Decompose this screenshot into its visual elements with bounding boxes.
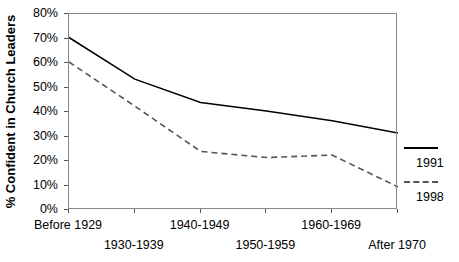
x-axis-tick-mark [265, 209, 266, 213]
y-axis-tick-mark [64, 87, 68, 88]
x-axis-tick-label: After 1970 [368, 238, 426, 252]
x-axis-tick-label: 1930-1939 [104, 238, 164, 252]
y-axis-tick-label: 70% [20, 32, 58, 44]
legend-label: 1998 [416, 190, 444, 204]
y-axis-tick-mark [64, 38, 68, 39]
y-axis-tick-label: 40% [20, 105, 58, 117]
y-axis-tick-label: 60% [20, 56, 58, 68]
legend-item-1991: 1991 [404, 146, 459, 180]
y-axis-tick-label: 30% [20, 130, 58, 142]
x-axis-tick-label: 1940-1949 [170, 218, 230, 232]
y-axis-tick-label: 50% [20, 81, 58, 93]
x-axis-tick-label: 1960-1969 [301, 218, 361, 232]
legend-swatch-dashed-icon [404, 181, 438, 183]
y-axis-tick-mark [64, 209, 68, 210]
y-axis-tick-mark [64, 13, 68, 14]
x-axis-tick-mark [134, 209, 135, 213]
x-axis-tick-mark [200, 209, 201, 213]
y-axis-tick-mark [64, 185, 68, 186]
x-axis-tick-mark [68, 209, 69, 213]
y-axis-tick-label: 20% [20, 154, 58, 166]
x-axis-tick-mark [331, 209, 332, 213]
legend-item-1998: 1998 [404, 180, 459, 214]
y-axis-tick-mark [64, 111, 68, 112]
series-line-1991 [69, 38, 398, 134]
legend-swatch-solid-icon [404, 147, 438, 149]
y-axis-tick-mark [64, 62, 68, 63]
x-axis-tick-label: Before 1929 [34, 218, 102, 232]
y-axis-title: % Confident in Church Leaders [3, 4, 18, 220]
y-axis-tick-label: 10% [20, 179, 58, 191]
legend-label: 1991 [416, 156, 444, 170]
chart-container: % Confident in Church Leaders 0%10%20%30… [0, 0, 459, 262]
x-axis-tick-label: 1950-1959 [236, 238, 296, 252]
plot-area [68, 13, 397, 209]
series-lines [69, 13, 398, 209]
y-axis-tick-label: 0% [20, 203, 58, 215]
legend: 1991 1998 [404, 146, 459, 214]
x-axis-tick-mark [397, 209, 398, 213]
y-axis-tick-mark [64, 160, 68, 161]
y-axis-tick-mark [64, 136, 68, 137]
y-axis-tick-label: 80% [20, 7, 58, 19]
